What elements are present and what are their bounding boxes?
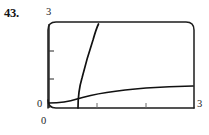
plot-canvas: [0, 0, 209, 135]
plot-frame-border: [48, 22, 194, 108]
graphing-calculator-figure: 43. 3 0 0 3: [0, 0, 209, 135]
curve-shallow-rising: [49, 86, 193, 103]
